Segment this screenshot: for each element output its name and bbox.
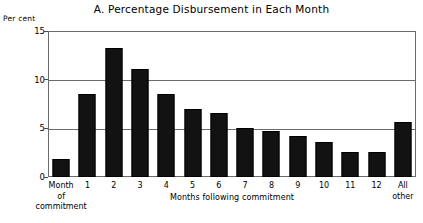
bar-slot	[74, 31, 100, 177]
bar	[315, 142, 332, 177]
y-tick-label: 5	[1, 123, 45, 133]
bar	[105, 48, 122, 177]
y-axis-label: Per cent	[3, 14, 35, 23]
bar-slot	[258, 31, 284, 177]
bar-slot	[127, 31, 153, 177]
x-tick-label-line: All	[376, 181, 423, 192]
chart-figure: A. Percentage Disbursement in Each Month…	[0, 0, 423, 223]
bar	[342, 152, 359, 177]
x-axis-title: Months following commitment	[48, 193, 416, 202]
bar	[79, 94, 96, 177]
x-tick-label-line: commitment	[34, 202, 88, 213]
bar-slot	[153, 31, 179, 177]
bar-slot	[101, 31, 127, 177]
bar	[237, 128, 254, 177]
bar-slot	[179, 31, 205, 177]
bar	[368, 152, 385, 177]
y-tick-label: 15	[1, 26, 45, 36]
bar-series	[48, 31, 416, 177]
bar	[184, 109, 201, 177]
bar-slot	[285, 31, 311, 177]
bar-slot	[232, 31, 258, 177]
bar	[210, 113, 227, 177]
bar	[263, 131, 280, 177]
bar-slot	[311, 31, 337, 177]
bar	[131, 69, 148, 177]
bar	[289, 136, 306, 177]
bar-slot	[48, 31, 74, 177]
bar-slot	[363, 31, 389, 177]
bar	[394, 122, 411, 177]
bar-slot	[206, 31, 232, 177]
bar-slot	[390, 31, 416, 177]
y-tick-label: 10	[1, 75, 45, 85]
chart-title: A. Percentage Disbursement in Each Month	[0, 3, 423, 15]
bar	[53, 159, 70, 177]
bar	[158, 94, 175, 177]
bar-slot	[337, 31, 363, 177]
